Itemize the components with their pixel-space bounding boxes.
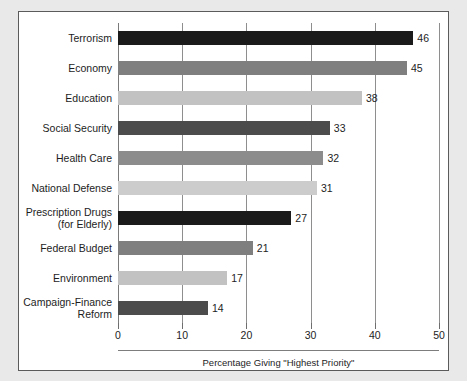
bar-value-label: 17 — [231, 272, 243, 284]
bar-value-label: 45 — [411, 62, 423, 74]
chart-figure: Terrorism46Economy45Education38Social Se… — [18, 11, 449, 371]
bar-value-label: 33 — [334, 122, 346, 134]
category-label: Campaign-Finance Reform — [0, 296, 112, 321]
bar-row: Education38 — [118, 83, 467, 113]
bar[interactable] — [118, 241, 253, 255]
plot-area: Terrorism46Economy45Education38Social Se… — [118, 23, 439, 323]
bar[interactable] — [118, 301, 208, 315]
bar[interactable] — [118, 151, 323, 165]
x-tick-label: 0 — [115, 329, 121, 341]
bar[interactable] — [118, 121, 330, 135]
bar-value-label: 32 — [327, 152, 339, 164]
x-axis-title: Percentage Giving "Highest Priority" — [118, 357, 439, 368]
bar-row: Terrorism46 — [118, 23, 467, 53]
category-label: Terrorism — [0, 32, 112, 44]
x-tick-label: 40 — [369, 329, 381, 341]
bar[interactable] — [118, 31, 413, 45]
bar[interactable] — [118, 181, 317, 195]
bar-value-label: 38 — [366, 92, 378, 104]
category-label: Education — [0, 92, 112, 104]
bar-row: Environment17 — [118, 263, 467, 293]
bar-value-label: 14 — [212, 302, 224, 314]
category-label: National Defense — [0, 182, 112, 194]
bar-row: Campaign-Finance Reform14 — [118, 293, 467, 323]
bar-row: Health Care32 — [118, 143, 467, 173]
bar-row: Federal Budget21 — [118, 233, 467, 263]
bar-value-label: 27 — [295, 212, 307, 224]
bar-row: Economy45 — [118, 53, 467, 83]
bar-row: Social Security33 — [118, 113, 467, 143]
category-label: Social Security — [0, 122, 112, 134]
category-label: Health Care — [0, 152, 112, 164]
x-axis-tick-labels: 01020304050 — [118, 329, 439, 345]
x-tick-label: 20 — [241, 329, 253, 341]
x-tick-label: 50 — [433, 329, 445, 341]
bar-value-label: 31 — [321, 182, 333, 194]
category-label: Prescription Drugs (for Elderly) — [0, 206, 112, 231]
category-label: Environment — [0, 272, 112, 284]
bar[interactable] — [118, 61, 407, 75]
bar[interactable] — [118, 211, 291, 225]
bar-value-label: 21 — [257, 242, 269, 254]
bar-row: Prescription Drugs (for Elderly)27 — [118, 203, 467, 233]
category-label: Economy — [0, 62, 112, 74]
bar[interactable] — [118, 91, 362, 105]
bar[interactable] — [118, 271, 227, 285]
axis-title-rule — [118, 350, 439, 351]
category-label: Federal Budget — [0, 242, 112, 254]
x-tick-label: 10 — [176, 329, 188, 341]
bar-row: National Defense31 — [118, 173, 467, 203]
bar-value-label: 46 — [417, 32, 429, 44]
x-tick-label: 30 — [305, 329, 317, 341]
